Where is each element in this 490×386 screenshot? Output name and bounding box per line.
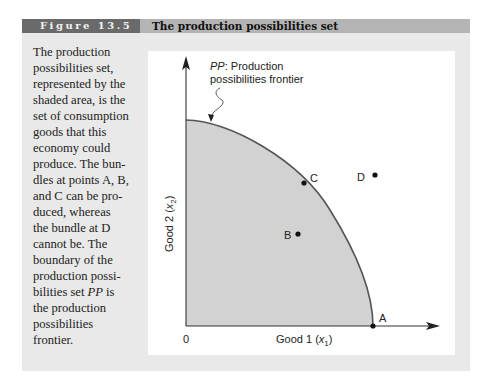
production-possibilities-set (186, 120, 373, 326)
annotation-arrowhead-icon (208, 114, 214, 122)
point-a-label: A (379, 312, 387, 324)
point-d-label: D (357, 171, 365, 183)
point-b (295, 231, 300, 236)
y-axis-label: Good 2 (x2) (163, 196, 178, 252)
point-c (301, 180, 306, 185)
point-c-label: C (310, 172, 318, 184)
annotation-label: PP: Production (210, 60, 283, 72)
point-d (372, 172, 377, 177)
annotation-label-line2: possibilities frontier (210, 73, 304, 85)
x-axis-label: Good 1 (x1) (276, 333, 332, 348)
point-a (370, 323, 375, 328)
origin-label: 0 (183, 333, 189, 345)
annotation-pointer (212, 88, 223, 119)
point-b-label: B (284, 229, 291, 241)
ppf-diagram: PP: Production possibilities frontier A … (0, 0, 490, 386)
